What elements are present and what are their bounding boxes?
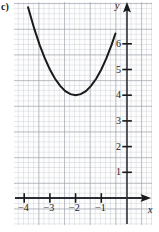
- x-tick-label-minus3: −3: [44, 203, 55, 213]
- x-tick-label-minus2: −2: [69, 203, 80, 213]
- x-axis-label: x: [148, 205, 152, 215]
- x-tick-label-minus1: −1: [95, 203, 106, 213]
- graph-figure: c) −4 −3: [0, 0, 159, 232]
- y-tick-label-3: 3: [116, 116, 121, 126]
- y-tick-label-6: 6: [116, 39, 121, 49]
- y-tick-label-4: 4: [116, 90, 121, 100]
- problem-label: c): [1, 1, 9, 12]
- x-tick-label-minus4: −4: [18, 203, 29, 213]
- y-tick-label-2: 2: [116, 142, 121, 152]
- y-tick-label-1: 1: [116, 167, 121, 177]
- graph-paper-grid: [14, 2, 152, 225]
- y-tick-label-5: 5: [116, 65, 121, 75]
- y-axis-label: y: [115, 1, 119, 11]
